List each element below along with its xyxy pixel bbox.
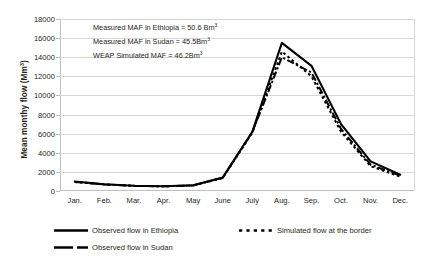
legend-label-observed-ethiopia: Observed flow in Ethiopia bbox=[92, 226, 178, 235]
annotation-line-2: Measured MAF in Sudan = 45.5Bm3 bbox=[93, 34, 217, 48]
x-axis-tick-label: May bbox=[186, 196, 200, 205]
annotation-superscript: 3 bbox=[207, 37, 210, 42]
annotation-text: Measured MAF in Ethiopia = 50.6 Bm bbox=[93, 23, 214, 32]
annotation-line-3: WEAP Simulated MAF = 46.2Bm3 bbox=[93, 48, 217, 62]
annotation-block: Measured MAF in Ethiopia = 50.6 Bm3Measu… bbox=[93, 20, 217, 61]
chart-figure: Mean monthy flow (Mm3) 02000400060008000… bbox=[0, 0, 438, 267]
x-axis-tick-label: Feb. bbox=[97, 196, 112, 205]
x-axis-tick-label: Apr. bbox=[157, 196, 171, 205]
x-axis-tick-label: June bbox=[214, 196, 230, 205]
chart-legend: Observed flow in Ethiopia Simulated flow… bbox=[54, 226, 434, 260]
y-axis-tick-label: 2000 bbox=[38, 167, 55, 176]
legend-row-2: Observed flow in Sudan bbox=[54, 243, 434, 260]
y-axis-tick-label: 0 bbox=[51, 187, 55, 196]
x-axis-tick-label: Mar. bbox=[127, 196, 142, 205]
x-axis-ticks: Jan.Feb.Mar.Apr.MayJuneJulyAug.Sep.Oct.N… bbox=[60, 196, 415, 210]
legend-item-observed-ethiopia[interactable]: Observed flow in Ethiopia bbox=[54, 226, 178, 235]
annotation-line-1: Measured MAF in Ethiopia = 50.6 Bm3 bbox=[93, 20, 217, 34]
series-line-observed-flow-in-ethiopia bbox=[75, 43, 400, 186]
annotation-text: WEAP Simulated MAF = 46.2Bm bbox=[93, 51, 200, 60]
series-line-simulated-flow-at-the-border bbox=[75, 51, 400, 186]
series-line-observed-flow-in-sudan bbox=[75, 57, 400, 186]
y-axis-tick-mark bbox=[56, 191, 60, 192]
annotation-superscript: 3 bbox=[214, 23, 217, 28]
y-axis-tick-label: 4000 bbox=[38, 148, 55, 157]
y-axis-title-superscript: 3 bbox=[19, 63, 25, 66]
x-axis-tick-label: Oct. bbox=[334, 196, 348, 205]
y-axis-title: Mean monthy flow (Mm3) bbox=[19, 29, 30, 189]
legend-swatch-solid-icon bbox=[54, 226, 88, 235]
legend-item-simulated-border[interactable]: Simulated flow at the border bbox=[239, 226, 372, 235]
y-axis-tick-label: 16000 bbox=[34, 34, 55, 43]
legend-label-observed-sudan: Observed flow in Sudan bbox=[92, 243, 173, 252]
legend-swatch-dashdot-icon bbox=[54, 243, 88, 252]
legend-item-observed-sudan[interactable]: Observed flow in Sudan bbox=[54, 243, 173, 252]
y-axis-tick-label: 8000 bbox=[38, 110, 55, 119]
x-axis-tick-label: Aug. bbox=[274, 196, 290, 205]
y-axis-tick-label: 12000 bbox=[34, 72, 55, 81]
y-axis-tick-label: 18000 bbox=[34, 15, 55, 24]
legend-swatch-dotted-icon bbox=[239, 226, 273, 235]
annotation-text: Measured MAF in Sudan = 45.5Bm bbox=[93, 37, 207, 46]
x-axis-tick-label: Dec. bbox=[392, 196, 408, 205]
annotation-superscript: 3 bbox=[200, 51, 203, 56]
y-axis-tick-label: 10000 bbox=[34, 91, 55, 100]
y-axis-tick-label: 6000 bbox=[38, 129, 55, 138]
legend-row-1: Observed flow in Ethiopia Simulated flow… bbox=[54, 226, 434, 243]
x-axis-tick-label: Sep. bbox=[304, 196, 320, 205]
y-axis-tick-label: 14000 bbox=[34, 53, 55, 62]
y-axis-title-tail: ) bbox=[20, 60, 29, 63]
x-axis-tick-label: July bbox=[246, 196, 260, 205]
x-axis-tick-label: Nov. bbox=[363, 196, 378, 205]
legend-label-simulated-border: Simulated flow at the border bbox=[277, 226, 372, 235]
y-axis-title-text: Mean monthy flow (Mm bbox=[20, 66, 29, 159]
x-axis-tick-label: Jan. bbox=[68, 196, 82, 205]
